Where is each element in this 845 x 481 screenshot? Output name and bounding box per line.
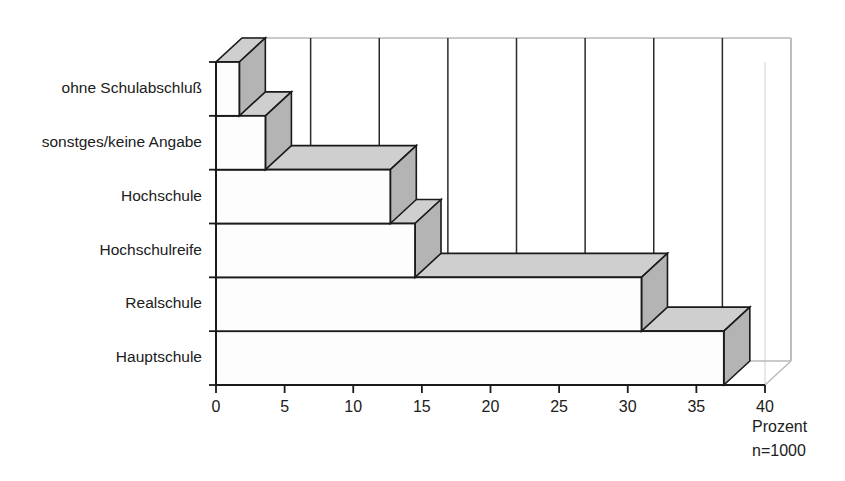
bar-front-face: [216, 331, 724, 385]
bar-front-face: [216, 224, 415, 278]
bar-front-face: [216, 116, 265, 170]
bar-front-face: [216, 62, 239, 116]
x-tick-label-25: 25: [550, 398, 568, 415]
category-label-5: Hauptschule: [116, 348, 202, 365]
x-tick-label-5: 5: [280, 398, 289, 415]
category-label-2: Hochschule: [121, 187, 202, 204]
x-tick-label-35: 35: [687, 398, 705, 415]
x-axis-unit-label: Prozent: [752, 418, 808, 435]
category-label-0: ohne Schulabschluß: [62, 79, 202, 96]
category-label-1: sonstges/keine Angabe: [42, 133, 202, 150]
bar-front-face: [216, 170, 390, 224]
sample-size-label: n=1000: [752, 442, 806, 459]
x-tick-label-20: 20: [482, 398, 500, 415]
x-tick-label-15: 15: [413, 398, 431, 415]
chart-container: ohne Schulabschlußsonstges/keine AngabeH…: [0, 0, 845, 481]
x-tick-label-10: 10: [344, 398, 362, 415]
bar-front-face: [216, 277, 641, 331]
x-tick-label-40: 40: [756, 398, 774, 415]
x-tick-label-0: 0: [212, 398, 221, 415]
category-label-3: Hochschulreife: [99, 241, 202, 258]
x-tick-label-30: 30: [619, 398, 637, 415]
bar-chart-3d: ohne Schulabschlußsonstges/keine AngabeH…: [0, 0, 845, 481]
category-label-4: Realschule: [125, 294, 202, 311]
